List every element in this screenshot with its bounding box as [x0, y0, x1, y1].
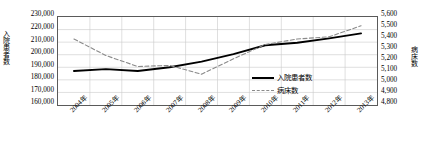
axis-tick-label: 5,200: [381, 55, 397, 62]
axis-tick-label: 220,000: [31, 24, 54, 31]
legend-label-beds: 病床数: [277, 84, 298, 95]
axis-tick-label: 210,000: [31, 37, 54, 44]
axis-tick-label: 4,900: [381, 88, 397, 95]
left-axis-title: 入院患者数: [1, 30, 9, 65]
axis-tick-label: 5,600: [381, 11, 397, 18]
legend-solid-line-icon: [252, 73, 274, 81]
axis-tick-label: 5,400: [381, 33, 397, 40]
axis-tick-label: 170,000: [31, 87, 54, 94]
axis-tick-label: 4,800: [381, 99, 397, 106]
dual-axis-line-chart: 入院患者数 160,000170,000180,000190,000200,00…: [0, 0, 427, 149]
axis-tick-label: 180,000: [31, 74, 54, 81]
axis-tick-label: 230,000: [31, 11, 54, 18]
axis-tick-label: 5,100: [381, 66, 397, 73]
legend-item-beds: 病床数: [252, 83, 344, 96]
legend-dashed-line-icon: [252, 86, 274, 94]
axis-tick-label: 160,000: [31, 99, 54, 106]
legend-item-inpatients: 入院患者数: [252, 70, 344, 83]
legend-label-inpatients: 入院患者数: [277, 71, 312, 82]
axis-tick-label: 5,000: [381, 77, 397, 84]
x-axis-tick-labels: 2004年2005年2006年2007年2008年2009年2010年2011年…: [57, 107, 378, 149]
right-axis-title: 病床数: [409, 46, 417, 67]
axis-tick-label: 200,000: [31, 49, 54, 56]
axis-tick-label: 190,000: [31, 62, 54, 69]
axis-tick-label: 5,500: [381, 22, 397, 29]
axis-tick-label: 5,300: [381, 44, 397, 51]
chart-legend: 入院患者数 病床数: [252, 70, 344, 96]
